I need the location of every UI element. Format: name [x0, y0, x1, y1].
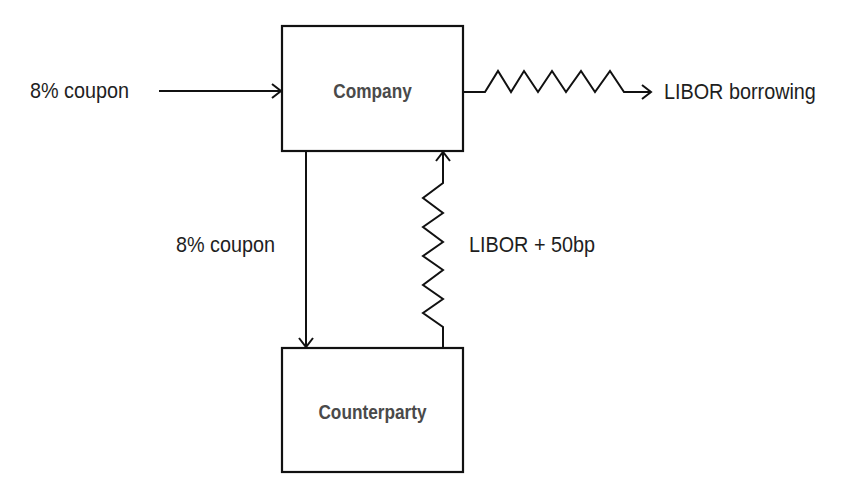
incoming-coupon-arrow: [159, 84, 281, 98]
incoming-coupon-label: 8% coupon: [30, 80, 129, 102]
libor-plus-spread-arrow: [423, 152, 450, 348]
coupon-to-counterparty-arrow: [299, 151, 313, 347]
company-label: Company: [298, 80, 446, 101]
counterparty-label: Counterparty: [298, 401, 446, 422]
libor-borrowing-label: LIBOR borrowing: [664, 81, 816, 103]
libor-borrowing-arrow: [463, 71, 651, 99]
libor-plus-spread-label: LIBOR + 50bp: [469, 234, 595, 256]
coupon-to-counterparty-label: 8% coupon: [176, 234, 275, 256]
